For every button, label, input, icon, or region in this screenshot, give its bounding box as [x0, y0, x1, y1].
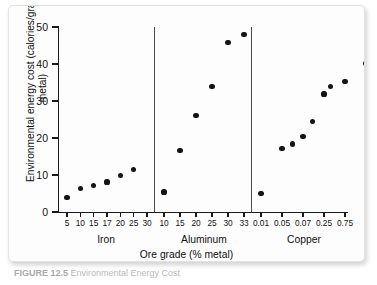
- y-tick-label: 40: [18, 59, 48, 70]
- data-point: [321, 91, 326, 96]
- data-point: [300, 134, 305, 139]
- panel-label-aluminum: Aluminum: [181, 234, 227, 245]
- y-tick: [52, 26, 59, 27]
- data-point: [209, 84, 214, 89]
- data-point: [342, 79, 347, 84]
- y-tick: [52, 137, 59, 138]
- x-tick-label: 0.01: [253, 219, 269, 227]
- x-tick: [211, 212, 212, 217]
- panel-label-copper: Copper: [287, 234, 321, 245]
- data-point: [64, 195, 69, 200]
- x-tick: [302, 212, 303, 217]
- data-point: [91, 183, 96, 188]
- x-tick: [146, 212, 147, 217]
- x-tick: [66, 212, 67, 217]
- x-tick-label: 10: [159, 219, 168, 227]
- y-tick-label: 0: [18, 207, 48, 218]
- x-tick: [281, 212, 282, 217]
- y-tick: [52, 174, 59, 175]
- x-tick-label: 17: [102, 219, 111, 227]
- x-tick: [260, 212, 261, 217]
- figure-caption-text: Environmental Energy Cost: [71, 268, 181, 278]
- data-point: [78, 186, 83, 191]
- data-point: [118, 173, 123, 178]
- x-tick-label: 10: [76, 219, 85, 227]
- data-point: [290, 141, 295, 146]
- data-point: [161, 189, 166, 194]
- y-axis-line: [58, 27, 59, 213]
- x-tick-label: 15: [175, 219, 184, 227]
- x-axis-label: Ore grade (% metal): [9, 249, 364, 260]
- x-tick-label: 33: [239, 219, 248, 227]
- panel-label-iron: Iron: [97, 234, 115, 245]
- figure-caption-label: FIGURE 12.5: [14, 268, 68, 278]
- data-point: [104, 179, 109, 184]
- x-axis-line: [58, 212, 348, 213]
- data-point: [258, 191, 263, 196]
- data-point: [279, 146, 284, 151]
- data-point: [241, 32, 246, 37]
- figure-caption: FIGURE 12.5 Environmental Energy Cost: [14, 268, 364, 278]
- y-tick-label: 20: [18, 133, 48, 144]
- x-tick-label: 25: [129, 219, 138, 227]
- y-tick-label: 10: [18, 170, 48, 181]
- x-tick: [80, 212, 81, 217]
- x-tick-label: 0.05: [274, 219, 290, 227]
- data-point: [177, 148, 182, 153]
- figure-root: Environmental energy cost (calories/gram…: [0, 0, 377, 285]
- y-tick: [52, 63, 59, 64]
- x-tick: [163, 212, 164, 217]
- y-tick-label: 50: [18, 22, 48, 33]
- x-tick-label: 0.25: [316, 219, 332, 227]
- panel-separator-2: [251, 27, 252, 212]
- data-point: [131, 167, 136, 172]
- x-tick: [93, 212, 94, 217]
- x-tick-label: 0.75: [337, 219, 353, 227]
- data-point: [225, 40, 230, 45]
- y-tick: [52, 100, 59, 101]
- x-tick: [344, 212, 345, 217]
- x-tick: [120, 212, 121, 217]
- panel-separator-1: [154, 27, 155, 212]
- x-tick: [106, 212, 107, 217]
- x-tick: [195, 212, 196, 217]
- x-tick-label: 30: [142, 219, 151, 227]
- figure-card: Environmental energy cost (calories/gram…: [8, 5, 365, 262]
- data-point: [328, 84, 333, 89]
- x-tick-label: 20: [191, 219, 200, 227]
- x-tick: [179, 212, 180, 217]
- plot-area: Environmental energy cost (calories/gram…: [9, 6, 364, 261]
- x-tick-label: 5: [65, 219, 70, 227]
- y-tick-label: 30: [18, 96, 48, 107]
- x-tick-label: 30: [223, 219, 232, 227]
- x-tick-label: 15: [89, 219, 98, 227]
- x-tick-label: 20: [116, 219, 125, 227]
- y-tick: [52, 211, 59, 212]
- x-tick: [227, 212, 228, 217]
- x-tick: [243, 212, 244, 217]
- x-tick-label: 25: [207, 219, 216, 227]
- x-tick: [323, 212, 324, 217]
- x-tick-label: 0.07: [295, 219, 311, 227]
- data-point: [310, 119, 315, 124]
- data-point: [193, 113, 198, 118]
- data-point: [363, 61, 365, 66]
- x-tick: [133, 212, 134, 217]
